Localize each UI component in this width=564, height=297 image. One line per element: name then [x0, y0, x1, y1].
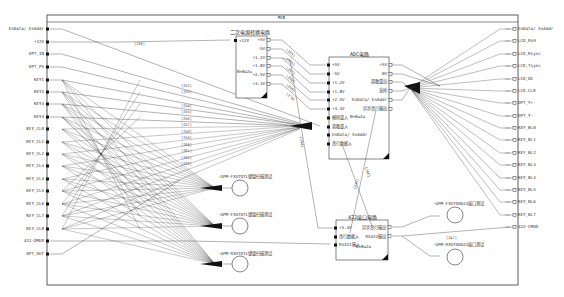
- net-tag: [247]: [446, 236, 457, 240]
- sheet-title: MCB: [278, 15, 285, 20]
- test-point-circle-3[interactable]: [232, 256, 248, 272]
- rs422-block-note: N=8u2u: [356, 244, 371, 249]
- right-port-label: OPT_Y+: [518, 100, 533, 105]
- power-block-output: +5V: [257, 37, 265, 42]
- left-port-label: KEY_CL6: [26, 201, 44, 206]
- power-block-output: +1.8V: [252, 63, 265, 68]
- right-fan-wires: [410, 29, 510, 215]
- left-port-label: +12V: [34, 39, 44, 44]
- right-port-label: KEY_BL1: [518, 137, 536, 142]
- adc-block-input: 离散量入: [332, 124, 348, 129]
- net-tag: [260]: [181, 143, 192, 147]
- right-port-label: KEY_BL0: [518, 125, 536, 130]
- test-point-label: -GPM-FXUTDTL键盘扫描测试: [218, 211, 272, 217]
- left-port-label: KEY4: [34, 114, 44, 119]
- left-port-label: OPT_OUT: [26, 251, 44, 256]
- left-port-label: KEY_CL8: [26, 226, 44, 231]
- power-block-output: +2.5V: [252, 72, 265, 77]
- left-port-label: KEY_CL7: [26, 213, 44, 218]
- rs422-block-input: +3.3V: [339, 225, 352, 230]
- net-tag: [258]: [181, 130, 192, 134]
- adc-block-output: 采样: [379, 88, 387, 93]
- rs422-block-input: 串行数据入: [339, 234, 359, 239]
- right-port-label: 422-CMDD: [518, 224, 538, 229]
- right-port-label: LCD_Rsync: [518, 51, 541, 56]
- net-tag: [256]: [181, 117, 192, 121]
- left-port-label: KEY_CL1: [26, 139, 44, 144]
- test-point-circle-2[interactable]: [232, 218, 248, 234]
- left-port-label: KEY_CL2: [26, 151, 44, 156]
- power-block-output: +1.2V: [252, 55, 265, 60]
- left-port-label: KEY_CL3: [26, 163, 44, 168]
- net-tag: [261]: [181, 149, 192, 153]
- right-port-label: LCD_RsH: [518, 38, 536, 43]
- right-port-label: KEY_BL7: [518, 212, 536, 217]
- left-port-label: EnData/ EnAddr: [9, 26, 44, 31]
- adc-block-input: +1.2V: [332, 80, 345, 85]
- right-port-label: LCD_CLK: [518, 88, 536, 93]
- right-port-label: EnData/ EnAddr: [518, 26, 553, 31]
- adc-block-output: 异步串行输出: [363, 106, 387, 111]
- adc-block-input: +3.3V: [332, 106, 345, 111]
- net-tag: [263]: [181, 162, 192, 166]
- left-port-label: KEY_CL0: [26, 126, 44, 131]
- right-port-label: KEY_BL5: [518, 187, 536, 192]
- adc-block-output: +5V: [379, 62, 387, 67]
- adc-block-input: 模拟量入: [332, 115, 348, 120]
- left-port-label: KEY3: [34, 101, 44, 106]
- right-port-label: LCD_Tsync: [518, 63, 541, 68]
- right-port-label: KEY_BL2: [518, 150, 536, 155]
- schematic-canvas: [0, 0, 564, 297]
- right-port-pins: [513, 28, 516, 229]
- net-tag: [254]: [181, 104, 192, 108]
- test-point-circle-4[interactable]: [447, 207, 463, 223]
- right-port-label: KEY_BL3: [518, 162, 536, 167]
- adc-block-input: +2.5V: [332, 97, 345, 102]
- left-port-label: OPT_IN: [29, 51, 44, 56]
- test-point-circle-1[interactable]: [232, 180, 248, 196]
- left-port-label: 422-DMUX: [24, 238, 44, 243]
- left-port-label: KEY2: [34, 89, 44, 94]
- net-tag: [252]: [181, 84, 192, 88]
- adc-block-output: EnData/ EnAddr: [352, 97, 387, 102]
- adc-block-input: +1.8V: [332, 89, 345, 94]
- net-tag: [236]: [134, 42, 145, 46]
- right-port-label: KEY_BL6: [518, 199, 536, 204]
- net-tag: [257]: [181, 123, 192, 127]
- test-point-label: -GPM-FXUTDTL键盘扫描测试: [218, 173, 272, 179]
- adc-block-title: ADC电路: [350, 50, 369, 57]
- right-port-leads: [505, 29, 513, 227]
- adc-block-input: EnData/ EnAddr: [332, 132, 367, 137]
- test-point-label: -GPM-RXUTDOA22接口测试: [433, 241, 484, 247]
- left-port-label: KEY_CL5: [26, 188, 44, 193]
- adc-block-input: -5V: [332, 71, 340, 76]
- adc-block-note: N=8u2u: [350, 114, 365, 119]
- net-tag: [253]: [181, 90, 192, 94]
- test-point-label: -GPM-RXUTDTL键盘扫描测试: [218, 250, 272, 256]
- power-to-adc-wires: [270, 40, 333, 228]
- rs422-block-output: 异步串行输出: [362, 225, 386, 230]
- net-tag: [262]: [181, 156, 192, 160]
- adc-block-input: +5V: [332, 62, 340, 67]
- adc-block-input: 串行数据入: [332, 141, 352, 146]
- power-block-note: N=8u2u: [237, 69, 252, 74]
- power-block-title: 二次电源转换电路: [230, 28, 270, 35]
- power-block-output: +3.3V: [252, 81, 265, 86]
- rs422-block-title: 422接口电路: [348, 213, 377, 220]
- power-block-output: -5V: [257, 46, 265, 51]
- net-tag: [255]: [181, 110, 192, 114]
- right-port-label: KEY_BL4: [518, 175, 536, 180]
- right-port-label: LCD_DE: [518, 76, 533, 81]
- test-point-label: -GPM-FXUTDOA22接口测试: [433, 200, 484, 206]
- right-port-label: OPT_Y-: [518, 113, 533, 118]
- adc-block-output: 离散量出: [371, 79, 387, 84]
- adc-block-output: 0V: [382, 71, 387, 76]
- power-block-input: +12V: [239, 38, 249, 43]
- left-port-label: KEY_CL4: [26, 176, 44, 181]
- test-point-circle-5[interactable]: [447, 249, 463, 265]
- net-tag: [259]: [181, 136, 192, 140]
- rs422-block-output: RS422输出: [365, 234, 386, 239]
- left-port-label: OPT_PS: [29, 64, 44, 69]
- left-port-pins: [46, 28, 49, 256]
- left-port-label: KEY1: [34, 77, 44, 82]
